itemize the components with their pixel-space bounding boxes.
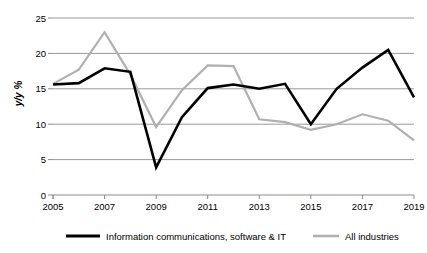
gridlines	[53, 18, 414, 160]
x-tick-label: 2011	[197, 201, 217, 212]
x-tick-label: 2009	[146, 201, 167, 212]
x-tick-label: 2013	[249, 201, 270, 212]
x-tick-label: 2017	[352, 201, 373, 212]
y-tick-label: 10	[35, 119, 46, 130]
y-tick-label: 20	[35, 48, 46, 59]
x-tick-label: 2019	[403, 201, 424, 212]
chart-container: y/y % 0510152025200520072009201120132015…	[0, 0, 427, 253]
y-tick-label: 15	[35, 83, 46, 94]
legend-label-1: All industries	[345, 231, 399, 242]
y-axis-ticks: 0510152025	[35, 13, 53, 201]
legend: Information communications, software & I…	[66, 231, 399, 242]
y-tick-label: 5	[41, 154, 46, 165]
x-tick-label: 2015	[300, 201, 321, 212]
x-axis-ticks: 20052007200920112013201520172019	[42, 195, 424, 212]
y-tick-label: 0	[41, 190, 46, 201]
y-axis-title: y/y %	[13, 64, 24, 124]
y-tick-label: 25	[35, 13, 46, 24]
line-chart: 0510152025200520072009201120132015201720…	[0, 0, 427, 253]
legend-label-0: Information communications, software & I…	[106, 231, 286, 242]
x-tick-label: 2007	[94, 201, 115, 212]
x-tick-label: 2005	[42, 201, 63, 212]
